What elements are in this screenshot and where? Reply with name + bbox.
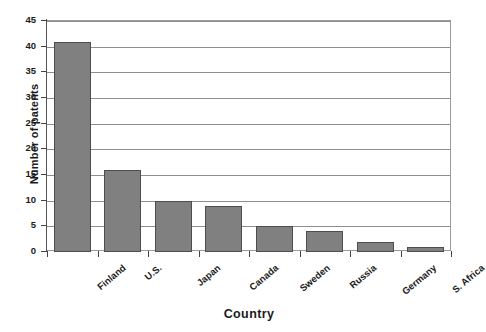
y-tick-label: 10: [0, 194, 36, 205]
y-tick-mark: [41, 174, 47, 175]
x-tick-mark: [451, 251, 452, 257]
y-tick-mark: [41, 148, 47, 149]
x-tick-label: U.S.: [142, 262, 163, 282]
x-tick-mark: [300, 251, 301, 257]
gridline: [47, 47, 450, 48]
y-tick-mark: [41, 225, 47, 226]
y-tick-mark: [41, 200, 47, 201]
x-tick-mark: [249, 251, 250, 257]
gridline: [47, 149, 450, 150]
gridline: [47, 21, 450, 22]
bar: [155, 201, 192, 252]
bar: [256, 226, 293, 252]
bar: [205, 206, 242, 252]
x-tick-mark: [148, 251, 149, 257]
bar: [54, 42, 91, 252]
bar: [407, 247, 444, 252]
y-tick-mark: [41, 97, 47, 98]
gridline: [47, 72, 450, 73]
x-tick-mark: [350, 251, 351, 257]
y-tick-mark: [41, 123, 47, 124]
gridline: [47, 98, 450, 99]
y-tick-label: 35: [0, 65, 36, 76]
x-tick-label: Finland: [95, 262, 128, 292]
x-tick-mark: [199, 251, 200, 257]
y-tick-mark: [41, 20, 47, 21]
x-tick-label: S. Africa: [450, 262, 486, 295]
x-tick-label: Sweden: [297, 262, 332, 294]
bar: [104, 170, 141, 252]
x-tick-mark: [401, 251, 402, 257]
y-axis-title: Number of patents: [28, 54, 40, 214]
x-tick-label: Canada: [247, 262, 280, 292]
y-tick-label: 30: [0, 91, 36, 102]
plot-area: [47, 20, 451, 251]
gridline: [47, 124, 450, 125]
x-tick-label: Russia: [347, 262, 378, 290]
x-tick-mark: [47, 251, 48, 257]
x-tick-label: Japan: [194, 262, 222, 288]
x-tick-label: Germany: [400, 262, 439, 297]
bar: [357, 242, 394, 252]
y-tick-label: 15: [0, 168, 36, 179]
y-tick-mark: [41, 71, 47, 72]
y-tick-label: 5: [0, 219, 36, 230]
y-tick-label: 40: [0, 40, 36, 51]
x-tick-mark: [98, 251, 99, 257]
y-tick-label: 25: [0, 117, 36, 128]
x-axis-title: Country: [47, 307, 451, 321]
y-tick-label: 20: [0, 142, 36, 153]
y-tick-label: 45: [0, 14, 36, 25]
bar: [306, 231, 343, 252]
y-tick-mark: [41, 46, 47, 47]
y-tick-label: 0: [0, 245, 36, 256]
